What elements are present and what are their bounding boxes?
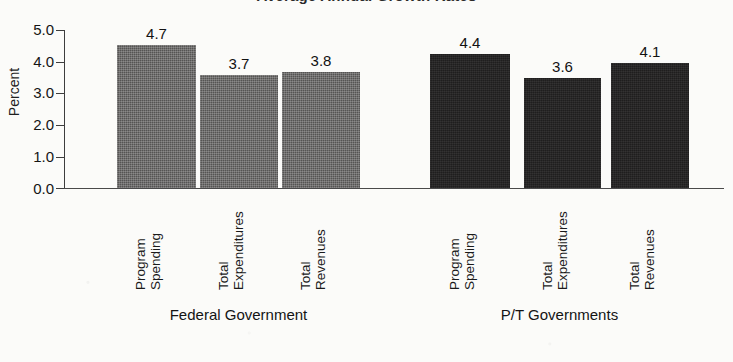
category-label-line2: Expenditures <box>555 211 570 290</box>
category-label-line1: Total <box>627 261 642 290</box>
bar-value-label: 4.7 <box>117 26 196 41</box>
bar-pt-total-revenues[interactable] <box>611 63 689 188</box>
category-label-pt-total-expenditures: Total Expenditures <box>540 211 570 290</box>
bar-value-label: 3.8 <box>282 53 360 68</box>
bar-value-label: 3.7 <box>200 56 278 71</box>
group-label-pt-governments: P/T Governments <box>430 306 689 323</box>
bar-value-label: 4.4 <box>430 35 510 50</box>
category-label-line1: Program <box>447 238 462 290</box>
category-label-line1: Program <box>133 238 148 290</box>
category-label-line1: Total <box>298 261 313 290</box>
bar-value-label: 4.1 <box>611 44 689 59</box>
category-label-line2: Spending <box>462 233 477 290</box>
bars-layer <box>0 0 733 188</box>
bar-federal-total-expenditures[interactable] <box>200 75 278 188</box>
category-label-federal-total-expenditures: Total Expenditures <box>216 211 246 290</box>
group-label-federal-government: Federal Government <box>117 306 360 323</box>
category-label-line1: Total <box>216 261 231 290</box>
category-label-line2: Revenues <box>313 229 328 290</box>
category-label-pt-program-spending: Program Spending <box>447 233 477 290</box>
category-label-pt-total-revenues: Total Revenues <box>627 229 657 290</box>
category-label-federal-total-revenues: Total Revenues <box>298 229 328 290</box>
category-label-line2: Revenues <box>642 229 657 290</box>
bar-value-label: 3.6 <box>524 59 601 74</box>
category-label-federal-program-spending: Program Spending <box>133 233 163 290</box>
bar-pt-program-spending[interactable] <box>430 54 510 188</box>
category-label-line2: Expenditures <box>231 211 246 290</box>
chart-figure: Average Annual Growth Rates Percent 5.0 … <box>0 0 733 362</box>
category-label-line1: Total <box>540 261 555 290</box>
bar-federal-program-spending[interactable] <box>117 45 196 188</box>
bar-pt-total-expenditures[interactable] <box>524 78 601 188</box>
bar-federal-total-revenues[interactable] <box>282 72 360 188</box>
category-label-line2: Spending <box>148 233 163 290</box>
x-axis-baseline <box>64 188 724 189</box>
